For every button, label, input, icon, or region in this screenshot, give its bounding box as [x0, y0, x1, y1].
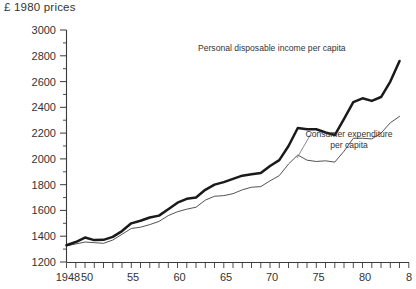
y-tick-label-2000: 2000: [32, 153, 56, 165]
annotation-label-personal-disposable-income: Personal disposable income per capita: [198, 43, 346, 53]
y-tick-label-2200: 2200: [32, 127, 56, 139]
series-line-personal-disposable-income: [67, 61, 400, 245]
x-minor-ticks: [67, 263, 409, 269]
annotation-label-consumer-expenditure-line2: per capita: [330, 140, 368, 150]
y-tick-label-2400: 2400: [32, 101, 56, 113]
y-tick-label-2800: 2800: [32, 50, 56, 62]
x-tick-label-1965: 65: [220, 271, 232, 283]
annotation-personal-disposable-income: Personal disposable income per capita: [198, 43, 346, 53]
x-tick-label-1955: 55: [127, 271, 139, 283]
chart-figure: £ 1980 prices 3: [0, 0, 416, 289]
y-tick-label-1200: 1200: [32, 256, 56, 268]
chart-canvas: 3000 2800 2600 2400 2200 2000 1800 1600 …: [0, 0, 416, 289]
x-tick-label-1975: 75: [312, 271, 324, 283]
y-tick-label-2600: 2600: [32, 76, 56, 88]
x-tick-label-1948: 1948: [56, 271, 80, 283]
x-tick-label-1980: 80: [359, 271, 371, 283]
y-tick-label-1400: 1400: [32, 230, 56, 242]
y-axis: 3000 2800 2600 2400 2200 2000 1800 1600 …: [32, 24, 67, 268]
x-tick-label-1970: 70: [266, 271, 278, 283]
annotation-label-consumer-expenditure-line1: Consumer expenditure: [306, 129, 393, 139]
x-axis: 1948 50 55 60 65 70 75 80 8: [56, 263, 412, 284]
x-tick-label-1985: 8: [406, 271, 412, 283]
y-tick-label-1600: 1600: [32, 204, 56, 216]
y-tick-label-3000: 3000: [32, 24, 56, 36]
x-tick-label-1950: 50: [81, 271, 93, 283]
annotation-consumer-expenditure: Consumer expenditure per capita: [297, 129, 393, 158]
y-axis-unit-title: £ 1980 prices: [4, 1, 76, 13]
x-tick-label-1960: 60: [173, 271, 185, 283]
y-tick-label-1800: 1800: [32, 179, 56, 191]
